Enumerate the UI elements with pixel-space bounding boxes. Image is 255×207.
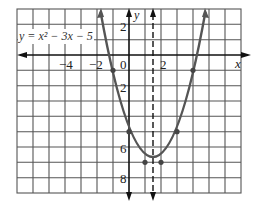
- y-axis-label: y: [134, 9, 139, 21]
- y-tick-neg8: 8: [120, 172, 127, 185]
- x-axis-arrow-right-icon: [241, 52, 251, 58]
- y-tick-neg2: 2: [120, 81, 127, 94]
- y-tick-2: 2: [120, 20, 127, 33]
- x-tick-2: 2: [160, 58, 167, 71]
- x-tick-0: 0: [120, 58, 127, 71]
- y-tick-neg6: 6: [120, 142, 127, 155]
- x-tick-neg2: −2: [89, 58, 103, 71]
- y-axis-arrow-down-icon: [126, 192, 132, 201]
- equation-label: y = x² − 3x − 5: [18, 29, 94, 44]
- x-axis-arrow-left-icon: [17, 52, 27, 58]
- symmetry-arrow-down-icon: [150, 192, 156, 201]
- x-axis-label: x: [235, 57, 241, 70]
- x-tick-neg4: −4: [59, 58, 73, 71]
